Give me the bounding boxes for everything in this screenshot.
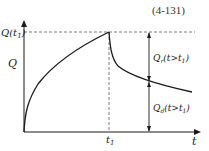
qr-label: Qr(t>t1) [153, 53, 189, 64]
y-axis-arrow-icon [21, 20, 27, 27]
dimension-arrow-top-icon [147, 32, 151, 38]
rise-curve [24, 32, 109, 132]
dimension-arrow-mid-up-icon [147, 82, 151, 87]
x-axis-label: t [192, 135, 197, 148]
x-tick-label: t1 [106, 134, 115, 147]
diagram-canvas: (4-131) Q(t1) Q t1 t Qr(t>t1) Qd(t>t1) [0, 0, 209, 151]
y-tick-label: Q(t1) [1, 27, 26, 40]
qd-label: Qd(t>t1) [153, 103, 190, 114]
equation-number: (4-131) [152, 4, 185, 17]
dimension-arrow-bottom-icon [147, 126, 151, 132]
y-axis-label: Q [8, 57, 17, 70]
